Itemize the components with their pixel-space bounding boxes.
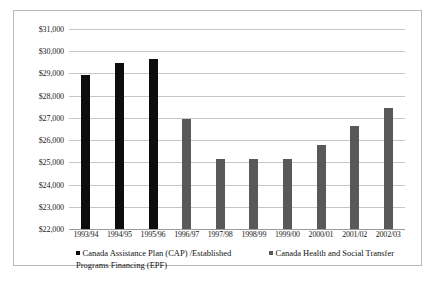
y-axis-tick-label: $22,000: [39, 225, 64, 234]
x-axis-tick-label: 1998/99: [241, 230, 266, 239]
x-axis-tick-label: 1997/98: [208, 230, 233, 239]
chart-figure: $31,000$30,000$29,000$28,000$27,000$26,0…: [13, 10, 422, 266]
y-axis-tick-label: $25,000: [39, 158, 64, 167]
y-axis-tick-label: $27,000: [39, 113, 64, 122]
bar-2002-03: [384, 108, 393, 229]
legend-entry-cap: Canada Assistance Plan (CAP) /Establishe…: [76, 248, 246, 271]
x-axis-tick-labels: 1993/941994/951995/961996/971997/981998/…: [69, 230, 405, 244]
y-axis-tick-label: $28,000: [39, 91, 64, 100]
bars-layer: [69, 29, 405, 229]
bar-1999-00: [283, 159, 292, 229]
legend-label-chst: Canada Health and Social Transfer: [276, 248, 395, 258]
y-axis-tick-label: $29,000: [39, 69, 64, 78]
bar-1996-97: [182, 119, 191, 229]
legend-swatch-cap-icon: [76, 251, 80, 255]
x-axis-tick-label: 2000/01: [309, 230, 334, 239]
x-axis-tick-label: 1996/97: [174, 230, 199, 239]
y-axis-tick-label: $30,000: [39, 47, 64, 56]
bar-2001-02: [350, 126, 359, 229]
bar-1993-94: [81, 75, 90, 229]
x-axis-tick-label: 2002/03: [376, 230, 401, 239]
y-axis-tick-label: $31,000: [39, 25, 64, 34]
legend-label-cap: Canada Assistance Plan (CAP) /Establishe…: [76, 248, 231, 270]
y-axis-tick-label: $24,000: [39, 180, 64, 189]
legend-entry-chst: Canada Health and Social Transfer: [269, 248, 434, 260]
bar-1994-95: [115, 63, 124, 229]
y-axis-tick-label: $26,000: [39, 136, 64, 145]
bar-1997-98: [216, 159, 225, 229]
bar-1995-96: [149, 59, 158, 229]
legend-swatch-chst-icon: [269, 251, 273, 255]
chart-legend: Canada Assistance Plan (CAP) /Establishe…: [14, 247, 421, 281]
bar-1998-99: [249, 159, 258, 229]
y-axis-tick-label: $23,000: [39, 202, 64, 211]
x-axis-tick-label: 1994/95: [107, 230, 132, 239]
bar-2000-01: [317, 145, 326, 229]
x-axis-tick-label: 2001/02: [342, 230, 367, 239]
x-axis-tick-label: 1999/00: [275, 230, 300, 239]
plot-area: $31,000$30,000$29,000$28,000$27,000$26,0…: [69, 29, 405, 229]
x-axis-tick-label: 1993/94: [73, 230, 98, 239]
x-axis-tick-label: 1995/96: [141, 230, 166, 239]
